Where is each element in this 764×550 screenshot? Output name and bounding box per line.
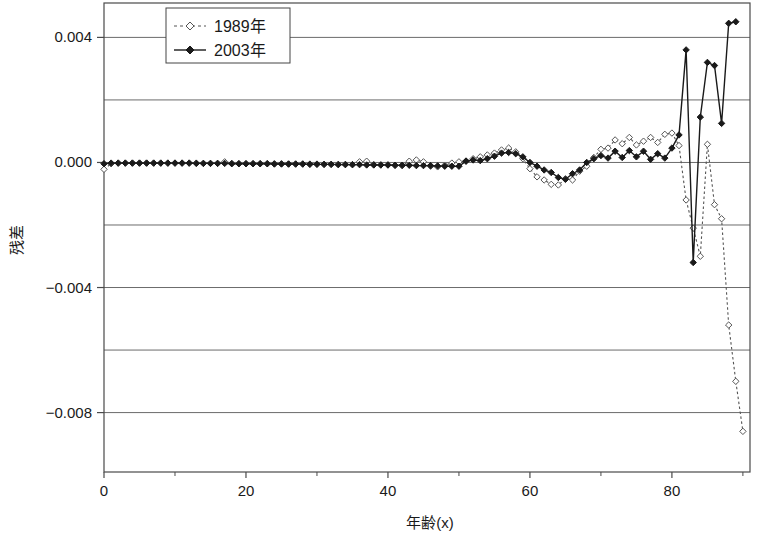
data-point-marker (704, 59, 710, 65)
data-point-marker (179, 160, 185, 166)
series-line (104, 133, 743, 431)
y-tick-label: 0.000 (54, 153, 92, 170)
data-point-marker (683, 197, 689, 203)
data-point-marker (101, 161, 107, 167)
data-point-marker (541, 167, 547, 173)
data-point-marker (697, 253, 703, 259)
data-point-marker (683, 47, 689, 53)
x-tick-label: 80 (664, 482, 681, 499)
x-tick-label: 0 (100, 482, 108, 499)
data-point-marker (633, 142, 639, 148)
x-tick-label: 60 (522, 482, 539, 499)
data-point-marker (726, 20, 732, 26)
data-point-marker (250, 161, 256, 167)
legend: 1989年 2003年 (166, 8, 290, 63)
series-1989年 (101, 130, 746, 435)
x-axis-title: 年齢(x) (406, 514, 454, 531)
data-point-marker (726, 322, 732, 328)
data-point-marker (236, 161, 242, 167)
x-axis-tick-labels: 020406080 (100, 482, 680, 499)
y-axis-ticks (97, 37, 104, 412)
data-point-marker (718, 216, 724, 222)
data-point-marker (292, 161, 298, 167)
data-point-marker (150, 160, 156, 166)
data-point-marker (200, 160, 206, 166)
plot-frame (104, 3, 750, 472)
data-point-marker (676, 132, 682, 138)
x-tick-label: 20 (238, 482, 255, 499)
data-point-marker (129, 160, 135, 166)
data-point-marker (399, 162, 405, 168)
y-axis-tick-labels: 0.0040.000−0.004−0.008 (46, 28, 92, 420)
data-point-marker (229, 161, 235, 167)
data-point-marker (143, 160, 149, 166)
data-point-marker (598, 146, 604, 152)
data-point-marker (392, 162, 398, 168)
legend-label-2003: 2003年 (214, 42, 266, 59)
data-point-marker (697, 114, 703, 120)
data-point-marker (122, 160, 128, 166)
data-point-marker (193, 160, 199, 166)
data-point-marker (711, 62, 717, 68)
y-tick-label: −0.008 (46, 404, 92, 421)
data-point-marker (662, 131, 668, 137)
data-point-marker (676, 142, 682, 148)
plot-border (104, 3, 750, 472)
data-point-marker (541, 177, 547, 183)
data-point-marker (733, 19, 739, 25)
data-point-marker (690, 259, 696, 265)
data-point-marker (278, 161, 284, 167)
y-tick-label: −0.004 (46, 279, 92, 296)
data-point-marker (158, 160, 164, 166)
data-point-marker (669, 130, 675, 136)
data-point-marker (214, 160, 220, 166)
y-tick-label: 0.004 (54, 28, 92, 45)
residual-chart: 020406080 0.0040.000−0.004−0.008 年齢(x) 残… (0, 0, 764, 550)
data-point-marker (264, 161, 270, 167)
data-point-marker (534, 163, 540, 169)
legend-label-1989: 1989年 (214, 18, 266, 35)
data-point-marker (569, 177, 575, 183)
gridlines (104, 37, 750, 412)
data-point-marker (285, 161, 291, 167)
data-point-marker (413, 162, 419, 168)
x-axis-ticks (104, 472, 743, 478)
data-point-marker (165, 160, 171, 166)
x-tick-label: 40 (380, 482, 397, 499)
data-point-marker (115, 160, 121, 166)
data-series (101, 19, 746, 435)
data-point-marker (740, 428, 746, 434)
y-axis-title: 残差 (8, 225, 25, 255)
data-point-marker (207, 160, 213, 166)
chart-svg: 020406080 0.0040.000−0.004−0.008 年齢(x) 残… (0, 0, 764, 550)
data-point-marker (704, 141, 710, 147)
data-point-marker (243, 161, 249, 167)
data-point-marker (136, 160, 142, 166)
data-point-marker (271, 161, 277, 167)
data-point-marker (640, 138, 646, 144)
data-point-marker (257, 161, 263, 167)
data-point-marker (733, 378, 739, 384)
data-point-marker (548, 181, 554, 187)
data-point-marker (598, 152, 604, 158)
data-point-marker (172, 160, 178, 166)
data-point-marker (300, 161, 306, 167)
data-point-marker (718, 120, 724, 126)
data-point-marker (711, 201, 717, 207)
data-point-marker (186, 160, 192, 166)
data-point-marker (505, 149, 511, 155)
